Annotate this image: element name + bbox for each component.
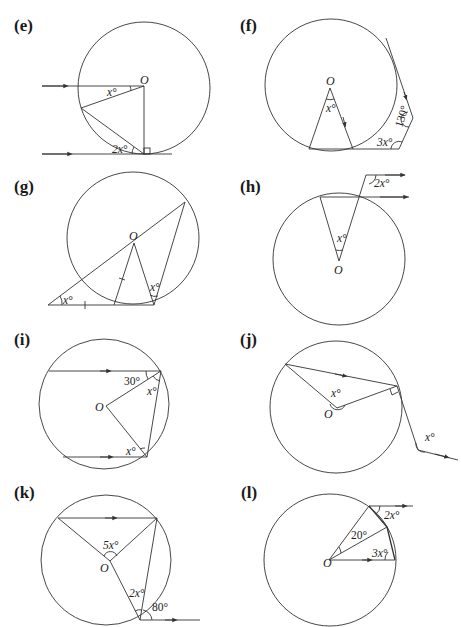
circle-theorem-diagrams: (e) O x° 2x° (f) O x° 130° 3x° (g) [0,0,461,627]
angle-label: 2x° [374,177,390,189]
center-label: O [326,74,335,88]
angle-label: x° [149,281,160,293]
angle-label: x° [125,445,136,457]
figure-g: (g) O x° x° [14,172,199,309]
angle-label: 3x° [371,547,388,559]
figure-label-j: (j) [240,330,257,349]
figure-label-e: (e) [14,16,33,35]
figure-label-i: (i) [14,330,30,349]
angle-label: 130° [392,104,410,129]
figure-f: (f) O x° 130° 3x° [240,16,413,151]
center-label: O [129,229,138,243]
angle-label: 2x° [129,587,145,599]
figure-l: (l) O 20° 2x° 3x° [241,483,413,626]
angle-label: x° [330,387,341,399]
figure-label-l: (l) [241,483,257,502]
angle-label: x° [325,102,336,114]
angle-label: 2x° [112,143,128,155]
center-label: O [334,263,343,277]
center-label: O [140,73,149,87]
angle-label: 20° [351,529,368,541]
figure-label-k: (k) [14,483,35,502]
circle [273,193,405,325]
angle-label: 30° [124,375,141,387]
angle-label: 80° [152,601,169,613]
figure-i: (i) O 30° x° x° [14,330,169,469]
figure-label-h: (h) [240,177,261,196]
angle-label: 3x° [376,136,393,148]
figure-label-f: (f) [240,16,257,35]
figure-h: (h) O x° 2x° [240,175,409,325]
angle-label: 5x° [103,539,119,551]
figure-e: (e) O x° 2x° [14,16,210,155]
angle-label: x° [146,385,157,397]
center-label: O [95,400,104,414]
figure-j: (j) O x° x° [240,330,458,473]
circle [39,339,169,469]
angle-label: x° [336,232,347,244]
center-label: O [324,407,333,421]
figure-label-g: (g) [14,177,34,196]
center-label: O [100,561,109,575]
angle-label: x° [62,294,73,306]
angle-label: x° [106,86,117,98]
figure-k: (k) O 5x° 2x° 80° [14,483,200,625]
center-label: O [323,556,332,570]
angle-label: x° [424,431,435,443]
angle-label: 2x° [384,509,400,521]
